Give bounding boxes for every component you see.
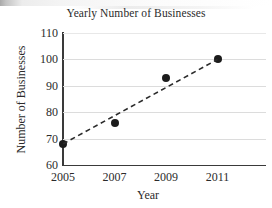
y-axis-title: Number of Businesses bbox=[14, 25, 29, 175]
data-point bbox=[111, 119, 119, 127]
data-point bbox=[214, 55, 222, 63]
x-tick-label: 2011 bbox=[188, 170, 248, 185]
data-point bbox=[162, 74, 170, 82]
gridline bbox=[63, 112, 266, 113]
chart-figure: Yearly Number of Businesses 607080901001… bbox=[0, 0, 272, 208]
gridline bbox=[63, 86, 266, 87]
gridline bbox=[63, 59, 266, 60]
gridline bbox=[63, 33, 266, 34]
data-point bbox=[59, 140, 67, 148]
x-axis-title: Year bbox=[63, 188, 233, 203]
gridline bbox=[63, 139, 266, 140]
plot-area bbox=[63, 33, 233, 165]
